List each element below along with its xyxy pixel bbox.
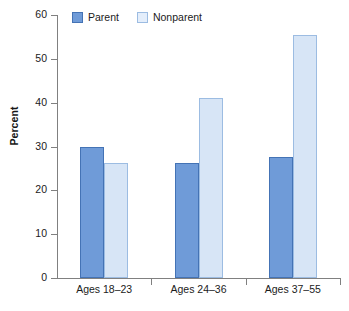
y-tick-mark bbox=[51, 278, 57, 279]
bar-parent-group-2 bbox=[175, 163, 199, 278]
bar-chart: Percent Parent Nonparent 0102030405060 A… bbox=[0, 0, 349, 311]
y-tick-label: 0 bbox=[41, 271, 47, 283]
x-axis-end-tick bbox=[340, 278, 341, 285]
y-tick-label: 60 bbox=[35, 8, 47, 20]
y-tick-label: 20 bbox=[35, 183, 47, 195]
bar-nonparent-group-3 bbox=[293, 35, 317, 278]
y-tick-label: 30 bbox=[35, 140, 47, 152]
x-axis-label-group-3: Ages 37–55 bbox=[246, 283, 340, 295]
y-tick-label: 50 bbox=[35, 52, 47, 64]
y-axis-title: Percent bbox=[8, 96, 20, 156]
x-axis-label-group-1: Ages 18–23 bbox=[57, 283, 151, 295]
bars-layer bbox=[57, 15, 340, 278]
bar-parent-group-3 bbox=[269, 157, 293, 278]
bar-nonparent-group-2 bbox=[199, 98, 223, 278]
x-axis-line bbox=[51, 278, 340, 279]
y-tick-label: 40 bbox=[35, 96, 47, 108]
y-tick: 0 bbox=[51, 278, 57, 279]
bar-parent-group-1 bbox=[80, 147, 104, 279]
x-axis-labels: Ages 18–23Ages 24–36Ages 37–55 bbox=[57, 283, 340, 303]
bar-nonparent-group-1 bbox=[104, 163, 128, 278]
y-tick-label: 10 bbox=[35, 227, 47, 239]
x-axis-label-group-2: Ages 24–36 bbox=[151, 283, 245, 295]
plot-area: 0102030405060 bbox=[57, 15, 340, 278]
